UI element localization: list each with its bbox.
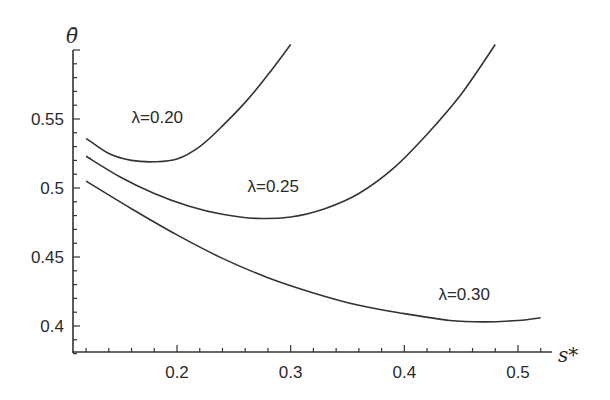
x-tick-label: 0.5 — [506, 363, 530, 382]
line-chart: 0.40.450.50.55 0.20.30.40.5 λ=0.20λ=0.25… — [0, 0, 610, 400]
y-tick-label: 0.55 — [31, 110, 64, 129]
y-tick-label: 0.5 — [40, 179, 64, 198]
y-axis-title-text: θ̄ — [66, 24, 78, 48]
y-tick-label: 0.4 — [40, 317, 64, 336]
x-tick-label: 0.3 — [279, 363, 303, 382]
x-axis-title-text: s* — [558, 343, 578, 367]
axes — [72, 50, 552, 353]
x-ticks: 0.20.30.40.5 — [86, 345, 541, 382]
y-axis-title: θ̄ — [66, 24, 78, 48]
curve-series-0 — [86, 45, 291, 162]
curve-labels: λ=0.20λ=0.25λ=0.30 — [132, 108, 490, 304]
curve-label: λ=0.25 — [247, 177, 299, 196]
x-tick-label: 0.4 — [393, 363, 417, 382]
x-tick-label: 0.2 — [165, 363, 189, 382]
curve-label: λ=0.30 — [438, 285, 490, 304]
curve-label: λ=0.20 — [132, 108, 184, 127]
y-tick-label: 0.45 — [31, 248, 64, 267]
x-axis-title: s* — [558, 343, 578, 367]
curves — [86, 45, 541, 322]
